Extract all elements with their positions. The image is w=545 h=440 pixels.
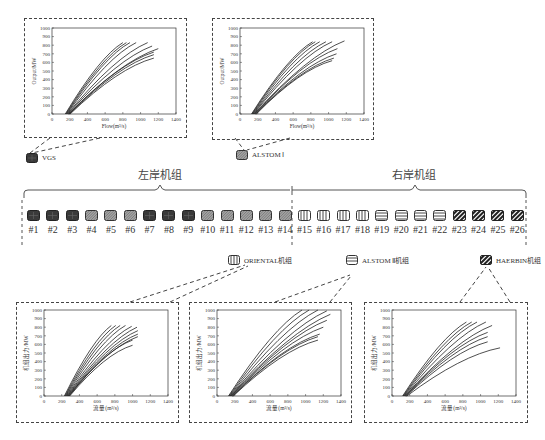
vgs-unit-icon bbox=[46, 210, 59, 221]
legend-oriental-label: ORIENTAL机组 bbox=[244, 255, 292, 265]
vgs-unit-icon bbox=[143, 210, 156, 221]
alstom2-unit-icon bbox=[433, 210, 446, 221]
vgs-unit-icon bbox=[182, 210, 195, 221]
unit-label: #26 bbox=[504, 224, 531, 235]
alstom1-unit-icon bbox=[240, 210, 253, 221]
unit-26: #26 bbox=[508, 210, 527, 235]
haerbin-unit-icon bbox=[491, 210, 504, 221]
oriental-pattern-icon bbox=[228, 255, 240, 265]
oriental-unit-icon bbox=[317, 210, 330, 221]
legend-haerbin-label: HAERBIN机组 bbox=[496, 255, 541, 265]
right-bank-label: 右岸机组 bbox=[392, 166, 436, 182]
legend-alstom1-label: ALSTOM Ⅰ bbox=[252, 151, 284, 159]
units-row: #1 #2 #3 #4 #5 #6 #7 #8 #9 bbox=[22, 210, 532, 250]
legend-alstom2-label: ALSTOM Ⅱ机组 bbox=[362, 255, 409, 265]
vgs-pattern-icon bbox=[26, 153, 38, 163]
legend-haerbin: HAERBIN机组 bbox=[480, 255, 541, 265]
legend-vgs: VGS bbox=[26, 153, 56, 163]
alstom1-unit-icon bbox=[104, 210, 117, 221]
oriental-unit-icon bbox=[298, 210, 311, 221]
haerbin-pattern-icon bbox=[480, 255, 492, 265]
vgs-unit-icon bbox=[27, 210, 40, 221]
legend-alstom2: ALSTOM Ⅱ机组 bbox=[346, 255, 409, 265]
alstom1-unit-icon bbox=[85, 210, 98, 221]
alstom1-pattern-icon bbox=[236, 150, 248, 160]
alstom1-unit-icon bbox=[279, 210, 292, 221]
alstom1-unit-icon bbox=[201, 210, 214, 221]
haerbin-unit-icon bbox=[511, 210, 524, 221]
legend-oriental: ORIENTAL机组 bbox=[228, 255, 292, 265]
alstom2-unit-icon bbox=[414, 210, 427, 221]
alstom2-unit-icon bbox=[375, 210, 388, 221]
oriental-unit-icon bbox=[356, 210, 369, 221]
alstom1-unit-icon bbox=[259, 210, 272, 221]
left-bank-label: 左岸机组 bbox=[138, 166, 182, 182]
alstom2-unit-icon bbox=[395, 210, 408, 221]
haerbin-unit-icon bbox=[472, 210, 485, 221]
vgs-unit-icon bbox=[162, 210, 175, 221]
alstom1-unit-icon bbox=[124, 210, 137, 221]
alstom1-unit-icon bbox=[221, 210, 234, 221]
alstom2-pattern-icon bbox=[346, 255, 358, 265]
legend-vgs-label: VGS bbox=[42, 154, 56, 162]
oriental-unit-icon bbox=[337, 210, 350, 221]
haerbin-unit-icon bbox=[453, 210, 466, 221]
legend-alstom1: ALSTOM Ⅰ bbox=[236, 150, 284, 160]
vgs-unit-icon bbox=[66, 210, 79, 221]
